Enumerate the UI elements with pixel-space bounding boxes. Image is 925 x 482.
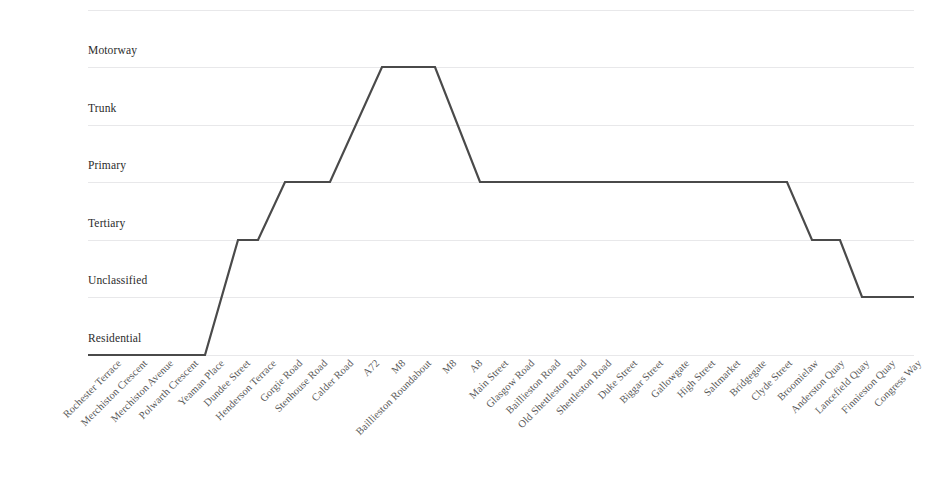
y-axis-tick-label: Primary (88, 159, 126, 171)
y-axis-tick-label: Trunk (88, 102, 116, 114)
x-axis-tick-label: A72 (361, 356, 383, 378)
plot-area (88, 0, 914, 356)
y-axis-tick-label: Unclassified (88, 274, 147, 286)
x-axis-labels-group: Rochester TerraceMerchiston CrescentMerc… (88, 356, 914, 482)
x-axis-tick-label: A8 (468, 356, 486, 374)
y-axis-tick-label: Motorway (88, 44, 137, 56)
x-axis-tick-label: M8 (389, 356, 409, 376)
y-axis-tick-label: Residential (88, 332, 141, 344)
y-axis-tick-label: Tertiary (88, 217, 125, 229)
x-axis-tick-label: M8 (441, 356, 461, 376)
road-class-line-series (88, 0, 914, 356)
